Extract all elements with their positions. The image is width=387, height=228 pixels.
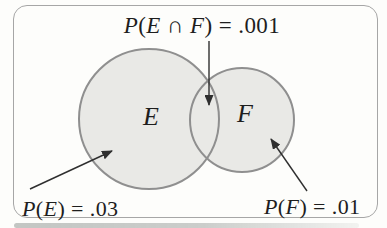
set-label-e: E — [143, 104, 159, 130]
scan-artifact-strip — [14, 223, 359, 228]
f-probability-annotation: P(F) = .01 — [264, 194, 360, 220]
arrow-to-circle-f — [271, 139, 307, 191]
set-label-f: F — [237, 101, 253, 127]
intersection-annotation: P(E ∩ F) = .001 — [102, 12, 302, 40]
figure-canvas: P(E ∩ F) = .001 E F P(E) = .03 P(F) = .0… — [0, 0, 387, 228]
e-probability-annotation: P(E) = .03 — [22, 196, 118, 222]
